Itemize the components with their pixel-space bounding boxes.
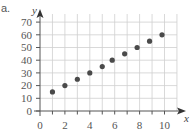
- y-tick-label: 0: [27, 105, 33, 117]
- x-tick-label: 6: [112, 119, 118, 131]
- data-point: [100, 64, 105, 69]
- ticks: [36, 22, 165, 114]
- axes: [34, 9, 186, 116]
- part-label: a.: [1, 2, 10, 14]
- y-tick-label: 70: [21, 16, 33, 28]
- data-point: [75, 77, 80, 82]
- data-point: [62, 83, 67, 88]
- data-point: [50, 89, 55, 94]
- data-point: [135, 45, 140, 50]
- y-tick-labels: 010203040506070: [21, 16, 33, 117]
- y-tick-label: 50: [21, 41, 33, 53]
- y-tick-label: 10: [21, 92, 33, 104]
- x-tick-label: 2: [62, 119, 68, 131]
- y-tick-label: 20: [21, 79, 33, 91]
- data-points: [50, 32, 165, 94]
- scatter-chart: a. 0246810 010203040506070 x y: [0, 0, 192, 135]
- data-point: [147, 39, 152, 44]
- y-tick-label: 40: [21, 54, 33, 66]
- data-point: [159, 32, 164, 37]
- grid: [40, 14, 177, 111]
- x-tick-label: 0: [37, 119, 43, 131]
- y-tick-label: 60: [21, 29, 33, 41]
- x-tick-label: 8: [137, 119, 143, 131]
- x-tick-label: 10: [159, 119, 171, 131]
- y-tick-label: 30: [21, 67, 33, 79]
- data-point: [110, 58, 115, 63]
- x-tick-labels: 0246810: [37, 119, 170, 131]
- x-tick-label: 4: [87, 119, 93, 131]
- x-axis-label: x: [183, 112, 189, 124]
- data-point: [122, 51, 127, 56]
- y-axis-label: y: [31, 4, 37, 16]
- data-point: [87, 70, 92, 75]
